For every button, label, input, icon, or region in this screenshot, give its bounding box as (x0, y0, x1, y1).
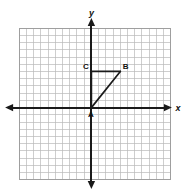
figure-canvas: C B A y x (0, 0, 183, 193)
point-label-a: A (88, 110, 94, 119)
x-axis-label: x (174, 103, 181, 113)
y-axis-label: y (88, 8, 95, 18)
point-label-b: B (123, 62, 129, 71)
point-label-c: C (83, 62, 89, 71)
coordinate-plane-figure: C B A y x (0, 0, 183, 193)
